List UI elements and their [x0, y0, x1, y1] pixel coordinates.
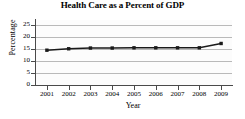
- data-point: [67, 47, 70, 50]
- data-point: [111, 46, 114, 49]
- data-point: [45, 49, 48, 52]
- line-chart: Health Care as a Percent of GDP Percenta…: [0, 0, 245, 119]
- data-point: [219, 42, 222, 45]
- data-point: [89, 46, 92, 49]
- series-markers: [45, 42, 223, 52]
- data-point: [176, 46, 179, 49]
- data-point: [198, 46, 201, 49]
- data-point: [132, 46, 135, 49]
- data-point: [154, 46, 157, 49]
- x-axis-label: Year: [34, 101, 232, 110]
